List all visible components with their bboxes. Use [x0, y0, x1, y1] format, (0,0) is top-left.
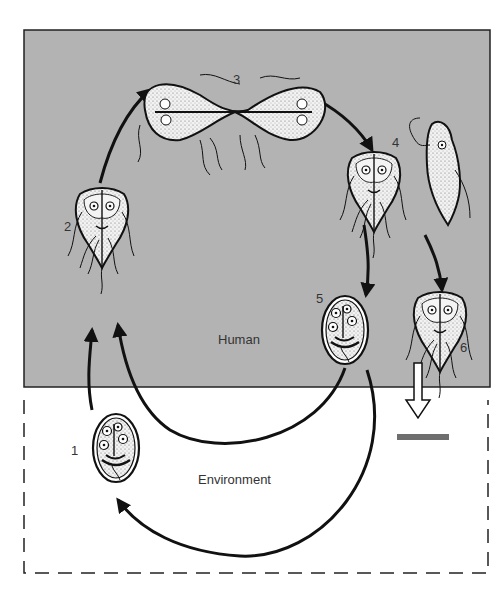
stage-5-cyst	[322, 296, 368, 364]
stage-1-cyst	[93, 414, 139, 482]
stage-number-2: 2	[64, 219, 71, 234]
stage-number-1: 1	[71, 443, 78, 458]
stage-number-5: 5	[316, 291, 323, 306]
ground-bar	[397, 434, 449, 440]
giardia-life-cycle-diagram: 1 2 3 4 5 6 Human Environment	[0, 0, 501, 594]
stage-number-3: 3	[233, 72, 240, 87]
environment-region-label: Environment	[198, 472, 271, 487]
stage-number-6: 6	[460, 340, 467, 355]
human-region-label: Human	[218, 332, 260, 347]
stage-number-4: 4	[392, 135, 399, 150]
